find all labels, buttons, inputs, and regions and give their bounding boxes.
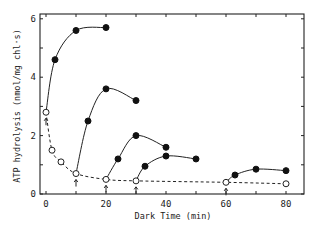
filled-point [142, 163, 148, 169]
x-tick-label: 20 [101, 199, 112, 209]
y-axis-label: ATP hydrolysis (nmol/mg chl·s) [12, 29, 22, 183]
open-point [58, 159, 64, 165]
y-tick-label: 4 [31, 72, 36, 82]
filled-point [163, 144, 169, 150]
open-point [103, 176, 109, 182]
filled-point [163, 153, 169, 159]
plot-frame [40, 14, 304, 194]
chart: 0204060800246 Dark Time (min) ATP hydrol… [0, 0, 316, 233]
filled-point [193, 156, 199, 162]
x-tick-label: 80 [281, 199, 292, 209]
filled-point [103, 25, 109, 31]
y-tick-label: 2 [31, 131, 36, 141]
filled-point [232, 172, 238, 178]
filled-point [115, 156, 121, 162]
y-tick-label: 6 [31, 14, 36, 24]
filled-point [133, 133, 139, 139]
open-point [73, 171, 79, 177]
x-axis-label: Dark Time (min) [135, 211, 212, 221]
axis-ticks: 0204060800246 [31, 14, 304, 209]
filled-point [73, 27, 79, 33]
filled-point [52, 57, 58, 63]
filled-point [133, 98, 139, 104]
open-point [133, 178, 139, 184]
open-point [223, 179, 229, 185]
x-tick-label: 0 [43, 199, 48, 209]
open-point [283, 181, 289, 187]
filled-point [283, 168, 289, 174]
filled-point [103, 86, 109, 92]
x-tick-label: 40 [161, 199, 172, 209]
filled-point [85, 118, 91, 124]
open-point [49, 147, 55, 153]
data-series [43, 25, 289, 187]
open-point [43, 109, 49, 115]
series-line [76, 88, 136, 173]
y-tick-label: 0 [31, 189, 36, 199]
filled-point [253, 166, 259, 172]
x-tick-label: 60 [221, 199, 232, 209]
